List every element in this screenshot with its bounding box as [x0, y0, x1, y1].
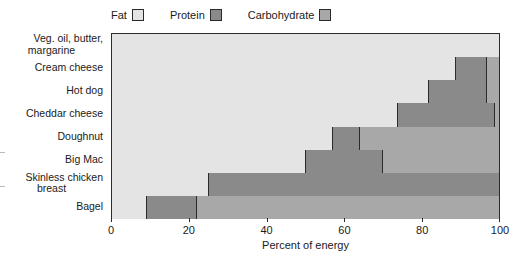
x-axis-tick [422, 218, 423, 222]
category-label-1: Cream cheese [0, 56, 103, 79]
category-label-line1: Cream cheese [35, 62, 103, 74]
legend-swatch-icon [132, 9, 144, 21]
chart-legend: FatProteinCarbohydrate [111, 5, 331, 25]
x-axis-tick-label: 60 [338, 224, 350, 236]
bar-segment-protein[interactable] [398, 103, 495, 126]
bar-row[interactable] [112, 127, 499, 150]
bar-row[interactable] [112, 103, 499, 126]
bar-segment-carbohydrate[interactable] [197, 196, 499, 219]
bar-segment-carbohydrate[interactable] [383, 150, 499, 173]
category-label-line1: Veg. oil, butter, [34, 33, 103, 45]
bar-segment-fat[interactable] [112, 34, 499, 57]
bar-segment-carbohydrate[interactable] [487, 80, 499, 103]
bar-segment-fat[interactable] [112, 196, 147, 219]
category-label-line1: Cheddar cheese [26, 108, 103, 120]
x-axis-tick-label: 100 [491, 224, 509, 236]
category-label-line1: Hot dog [66, 85, 103, 97]
x-axis-tick-label: 20 [183, 224, 195, 236]
category-label-line2: margarine [0, 45, 103, 57]
x-axis-tick [499, 218, 500, 222]
category-label-5: Big Mac [0, 149, 103, 172]
legend-entry-protein[interactable]: Protein [170, 9, 222, 21]
bar-segment-fat[interactable] [112, 150, 306, 173]
category-label-line1: Bagel [76, 201, 103, 213]
bar-segment-protein[interactable] [147, 196, 197, 219]
legend-label: Protein [170, 10, 205, 21]
bar-segment-fat[interactable] [112, 57, 456, 80]
category-label-line1: Big Mac [65, 154, 103, 166]
stacked-bar-chart-figure: FatProteinCarbohydrate Veg. oil, butter,… [0, 0, 525, 266]
bar-segment-fat[interactable] [112, 80, 429, 103]
bar-segment-fat[interactable] [112, 103, 398, 126]
plot-area [111, 33, 500, 218]
bar-segment-carbohydrate[interactable] [487, 57, 499, 80]
x-axis-tick [189, 218, 190, 222]
bar-segment-carbohydrate[interactable] [495, 103, 499, 126]
legend-label: Carbohydrate [248, 10, 315, 21]
x-axis-tick [111, 218, 112, 222]
bar-row[interactable] [112, 150, 499, 173]
category-label-6: Skinless chickenbreast [0, 172, 103, 195]
bar-row[interactable] [112, 34, 499, 57]
bar-segment-protein[interactable] [306, 150, 383, 173]
x-axis-tick-label: 0 [108, 224, 114, 236]
bar-segment-protein[interactable] [209, 173, 499, 196]
bar-row[interactable] [112, 80, 499, 103]
scan-artifact [0, 186, 5, 187]
category-label-4: Doughnut [0, 126, 103, 149]
category-label-line2: breast [0, 183, 103, 195]
x-axis-tick [344, 218, 345, 222]
category-label-line1: Doughnut [57, 131, 103, 143]
bar-row[interactable] [112, 196, 499, 219]
bar-segment-protein[interactable] [429, 80, 487, 103]
legend-swatch-icon [319, 9, 331, 21]
x-axis-tick-label: 40 [260, 224, 272, 236]
scan-artifact [0, 152, 5, 153]
x-axis-tick-label: 80 [416, 224, 428, 236]
category-label-7: Bagel [0, 195, 103, 218]
bar-segment-protein[interactable] [333, 127, 360, 150]
x-axis-tick [267, 218, 268, 222]
bar-segment-fat[interactable] [112, 127, 333, 150]
category-label-3: Cheddar cheese [0, 102, 103, 125]
legend-entry-carbohydrate[interactable]: Carbohydrate [248, 9, 332, 21]
category-axis-labels: Veg. oil, butter,margarineCream cheeseHo… [0, 33, 107, 218]
bar-row[interactable] [112, 173, 499, 196]
bar-segment-carbohydrate[interactable] [360, 127, 499, 150]
legend-entry-fat[interactable]: Fat [111, 9, 144, 21]
legend-swatch-icon [210, 9, 222, 21]
bar-row[interactable] [112, 57, 499, 80]
category-label-2: Hot dog [0, 79, 103, 102]
category-label-0: Veg. oil, butter,margarine [0, 33, 103, 56]
x-axis-title: Percent of energy [111, 239, 500, 251]
bar-segment-protein[interactable] [456, 57, 487, 80]
legend-label: Fat [111, 10, 127, 21]
bar-segment-fat[interactable] [112, 173, 209, 196]
